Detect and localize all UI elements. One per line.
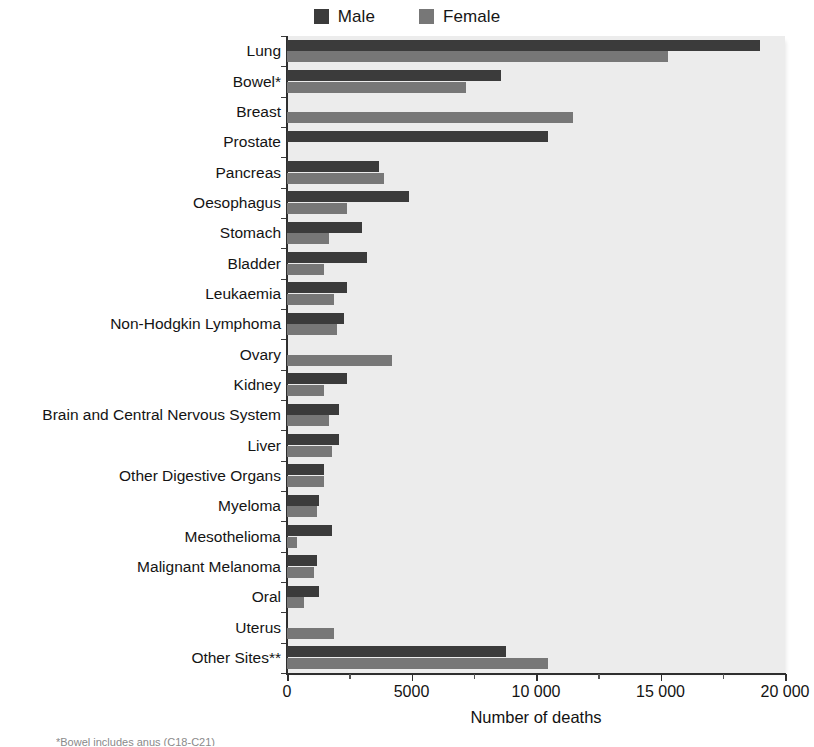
category-label: Pancreas bbox=[0, 165, 281, 181]
category-label: Liver bbox=[0, 438, 281, 454]
x-tick-label: 15 000 bbox=[636, 682, 685, 701]
bar-female bbox=[287, 385, 324, 396]
bar-male bbox=[287, 373, 347, 384]
bar-male bbox=[287, 495, 319, 506]
bar-male bbox=[287, 282, 347, 293]
category-label: Leukaemia bbox=[0, 286, 281, 302]
category-label: Uterus bbox=[0, 620, 281, 636]
category-label: Stomach bbox=[0, 225, 281, 241]
x-tick-label: 5000 bbox=[394, 682, 430, 701]
category-label: Brain and Central Nervous System bbox=[0, 407, 281, 423]
bar-female bbox=[287, 658, 548, 669]
bar-female bbox=[287, 51, 668, 62]
legend-item-male: Male bbox=[314, 8, 375, 25]
category-label: Oesophagus bbox=[0, 195, 281, 211]
bar-female bbox=[287, 628, 334, 639]
category-label: Bladder bbox=[0, 256, 281, 272]
bar-male bbox=[287, 131, 548, 142]
x-tick-major bbox=[661, 674, 663, 681]
category-label: Kidney bbox=[0, 377, 281, 393]
male-swatch-icon bbox=[314, 9, 329, 24]
x-axis-ticks bbox=[287, 674, 785, 681]
x-axis-tick-labels: 0500010 00015 00020 000 bbox=[0, 682, 814, 706]
x-tick-minor bbox=[723, 674, 725, 679]
category-label: Oral bbox=[0, 589, 281, 605]
category-label: Other Sites** bbox=[0, 650, 281, 666]
bar-female bbox=[287, 173, 384, 184]
x-tick-minor bbox=[474, 674, 476, 679]
bar-male bbox=[287, 464, 324, 475]
category-label: Breast bbox=[0, 104, 281, 120]
x-tick-major bbox=[785, 674, 787, 681]
bar-female bbox=[287, 294, 334, 305]
x-tick-major bbox=[287, 674, 289, 681]
bar-male bbox=[287, 161, 379, 172]
bar-female bbox=[287, 506, 317, 517]
category-label: Non-Hodgkin Lymphoma bbox=[0, 316, 281, 332]
bars-container bbox=[287, 36, 785, 673]
bar-male bbox=[287, 222, 362, 233]
x-tick-major bbox=[412, 674, 414, 681]
x-tick-label: 10 000 bbox=[512, 682, 561, 701]
bar-female bbox=[287, 476, 324, 487]
bar-female bbox=[287, 446, 332, 457]
bar-male bbox=[287, 404, 339, 415]
bar-male bbox=[287, 555, 317, 566]
bar-female bbox=[287, 355, 392, 366]
bar-female bbox=[287, 264, 324, 275]
category-label: Lung bbox=[0, 43, 281, 59]
bar-male bbox=[287, 40, 760, 51]
bar-male bbox=[287, 525, 332, 536]
bar-male bbox=[287, 313, 344, 324]
x-tick-minor bbox=[598, 674, 600, 679]
female-swatch-icon bbox=[419, 9, 434, 24]
category-label: Bowel* bbox=[0, 74, 281, 90]
x-tick-major bbox=[536, 674, 538, 681]
bar-male bbox=[287, 191, 409, 202]
legend-label-male: Male bbox=[338, 8, 375, 25]
bar-male bbox=[287, 434, 339, 445]
category-axis-labels: LungBowel*BreastProstatePancreasOesophag… bbox=[0, 36, 281, 673]
bar-male bbox=[287, 70, 501, 81]
bar-female bbox=[287, 203, 347, 214]
bar-female bbox=[287, 82, 466, 93]
bar-female bbox=[287, 567, 314, 578]
x-tick-label: 20 000 bbox=[761, 682, 810, 701]
bar-female bbox=[287, 112, 573, 123]
category-label: Other Digestive Organs bbox=[0, 468, 281, 484]
category-label: Ovary bbox=[0, 347, 281, 363]
chart-footnote: *Bowel includes anus (C18-C21) bbox=[56, 736, 215, 746]
category-label: Mesothelioma bbox=[0, 529, 281, 545]
category-label: Prostate bbox=[0, 134, 281, 150]
bar-male bbox=[287, 646, 506, 657]
category-label: Malignant Melanoma bbox=[0, 559, 281, 575]
x-axis-title: Number of deaths bbox=[287, 708, 785, 727]
bar-female bbox=[287, 415, 329, 426]
chart-legend: Male Female bbox=[0, 4, 814, 28]
x-tick-minor bbox=[349, 674, 351, 679]
category-label: Myeloma bbox=[0, 498, 281, 514]
bar-male bbox=[287, 586, 319, 597]
bar-female bbox=[287, 233, 329, 244]
x-tick-label: 0 bbox=[283, 682, 292, 701]
cancer-deaths-bar-chart: Male Female LungBowel*BreastProstatePanc… bbox=[0, 0, 814, 747]
bar-male bbox=[287, 252, 367, 263]
legend-label-female: Female bbox=[443, 8, 500, 25]
bar-female bbox=[287, 597, 304, 608]
legend-item-female: Female bbox=[419, 8, 500, 25]
bar-female bbox=[287, 537, 297, 548]
bar-female bbox=[287, 324, 337, 335]
